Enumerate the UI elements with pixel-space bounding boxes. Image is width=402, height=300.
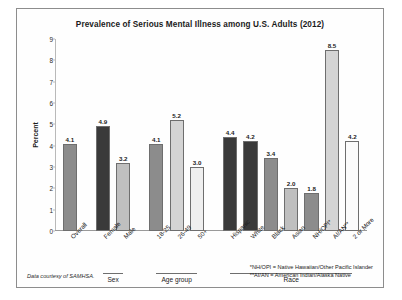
y-tick-label: 8 — [42, 57, 53, 64]
y-tick-mark — [53, 188, 56, 189]
chart-title: Prevalence of Serious Mental Illness amo… — [17, 20, 383, 29]
y-tick-label: 6 — [42, 100, 53, 107]
bar: 8.5 — [325, 50, 339, 231]
y-tick-label: 7 — [42, 78, 53, 85]
y-tick-label: 3 — [42, 164, 53, 171]
y-tick-mark — [53, 124, 56, 125]
bar-value-label: 1.8 — [307, 185, 316, 192]
group-label: Age group — [161, 276, 191, 283]
bar: 5.2 — [170, 120, 184, 231]
y-tick-label: 4 — [42, 142, 53, 149]
group-bracket-line — [103, 273, 123, 274]
y-tick-mark — [53, 103, 56, 104]
bar-value-label: 3.4 — [266, 150, 275, 157]
bar-value-label: 4.1 — [66, 136, 75, 143]
y-axis-line — [55, 39, 56, 231]
bar: 4.9 — [96, 126, 110, 231]
y-tick-mark — [53, 167, 56, 168]
bar-value-label: 4.1 — [152, 136, 161, 143]
bar-value-label: 4.2 — [246, 133, 255, 140]
y-tick-mark — [53, 60, 56, 61]
bar-value-label: 5.2 — [172, 112, 181, 119]
bar: 2.0 — [284, 188, 298, 231]
bar: 3.4 — [264, 158, 278, 231]
bar: 1.8 — [304, 193, 318, 231]
source-note: Data courtesy of SAMHSA. — [27, 273, 94, 279]
bar-value-label: 2.0 — [287, 180, 296, 187]
group-bracket-line — [156, 273, 197, 274]
bar-value-label: 3.0 — [193, 159, 202, 166]
chart-frame: Prevalence of Serious Mental Illness amo… — [16, 8, 384, 288]
y-tick-label: 0 — [42, 228, 53, 235]
bar-value-label: 4.2 — [348, 133, 357, 140]
plot-area: Percent 0123456789 4.14.93.24.15.23.04.4… — [55, 39, 367, 231]
bar-value-label: 3.2 — [119, 155, 128, 162]
bar: 4.1 — [63, 144, 77, 231]
group-label: Sex — [107, 276, 118, 283]
bar: 4.4 — [223, 137, 237, 231]
y-tick-label: 5 — [42, 121, 53, 128]
y-tick-mark — [53, 81, 56, 82]
bar: 4.2 — [345, 141, 359, 231]
footnote-aian: **AI/AN = American Indian/Alaska Native — [250, 271, 373, 280]
y-tick-mark — [53, 231, 56, 232]
y-tick-label: 9 — [42, 36, 53, 43]
bar-value-label: 4.9 — [99, 118, 108, 125]
y-tick-mark — [53, 209, 56, 210]
bar-value-label: 8.5 — [328, 42, 337, 49]
y-tick-label: 1 — [42, 206, 53, 213]
bar: 3.0 — [190, 167, 204, 231]
bar-value-label: 4.4 — [226, 129, 235, 136]
y-axis-label: Percent — [32, 122, 39, 148]
y-tick-mark — [53, 39, 56, 40]
bar: 4.1 — [149, 144, 163, 231]
footnote-nhopi: *NH/OPI = Native Hawaiian/Other Pacific … — [250, 263, 373, 272]
y-tick-label: 2 — [42, 185, 53, 192]
footnotes: *NH/OPI = Native Hawaiian/Other Pacific … — [250, 263, 373, 280]
y-tick-mark — [53, 145, 56, 146]
